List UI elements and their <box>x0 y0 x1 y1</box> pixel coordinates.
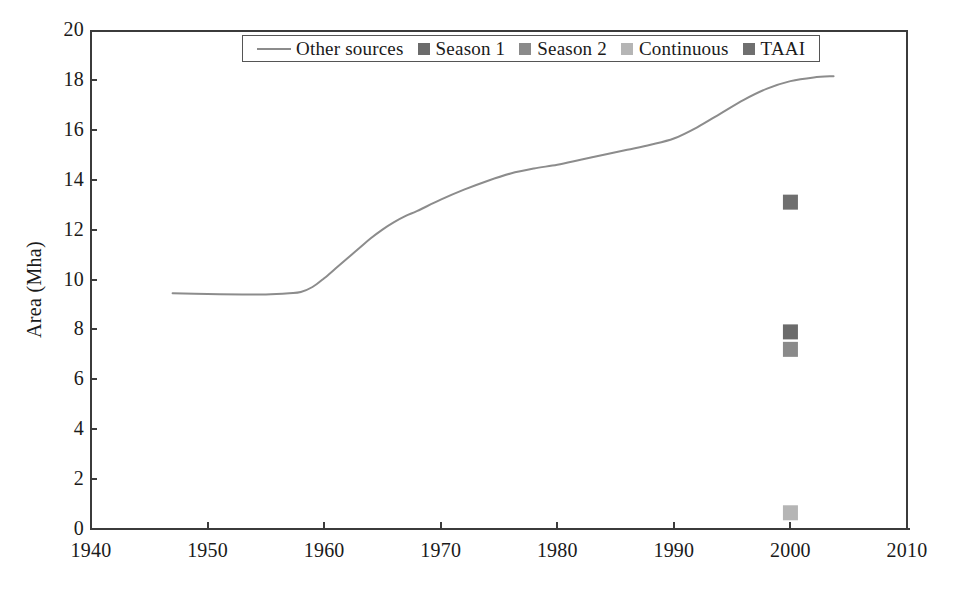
chart-legend: Other sourcesSeason 1Season 2ContinuousT… <box>242 35 820 62</box>
legend-square-swatch-icon <box>621 43 633 55</box>
chart-figure: 20181614121086420 1940195019601970198019… <box>0 0 964 595</box>
legend-label: Other sources <box>296 39 404 58</box>
x-tick-mark <box>323 522 325 529</box>
y-tick-label: 2 <box>40 468 84 488</box>
legend-entry-season-2[interactable]: Season 2 <box>519 39 607 58</box>
x-tick-mark <box>789 522 791 529</box>
y-tick-label: 16 <box>40 119 84 139</box>
y-tick-label: 12 <box>40 219 84 239</box>
y-tick-mark <box>90 328 97 330</box>
y-tick-mark <box>90 378 97 380</box>
legend-square-swatch-icon <box>418 43 430 55</box>
legend-entry-continuous[interactable]: Continuous <box>621 39 729 58</box>
legend-label: Season 2 <box>537 39 607 58</box>
plot-right-border <box>906 30 908 530</box>
plot-area <box>90 30 908 529</box>
legend-entry-taai[interactable]: TAAI <box>743 39 806 58</box>
legend-label: Continuous <box>639 39 729 58</box>
legend-square-swatch-icon <box>743 43 755 55</box>
x-tick-mark <box>207 522 209 529</box>
y-tick-mark <box>90 279 97 281</box>
legend-entry-season-1[interactable]: Season 1 <box>418 39 506 58</box>
x-tick-label: 2000 <box>745 539 835 561</box>
x-tick-label: 1950 <box>163 539 253 561</box>
y-tick-label: 18 <box>40 69 84 89</box>
legend-line-swatch-icon <box>257 48 291 50</box>
x-tick-label: 1970 <box>396 539 486 561</box>
x-tick-label: 1990 <box>629 539 719 561</box>
x-tick-mark <box>90 522 92 529</box>
y-axis-title: Area (Mha) <box>23 190 46 390</box>
legend-square-swatch-icon <box>519 43 531 55</box>
y-tick-label: 4 <box>40 418 84 438</box>
y-tick-label: 14 <box>40 169 84 189</box>
x-tick-mark <box>673 522 675 529</box>
y-tick-mark <box>90 179 97 181</box>
x-tick-mark <box>556 522 558 529</box>
y-tick-mark <box>90 229 97 231</box>
x-tick-label: 2010 <box>862 539 952 561</box>
x-tick-mark <box>440 522 442 529</box>
legend-label: TAAI <box>761 39 806 58</box>
x-axis-tick-labels: 19401950196019701980199020002010 <box>0 539 964 571</box>
y-tick-mark <box>90 478 97 480</box>
y-tick-label: 0 <box>40 518 84 538</box>
y-tick-mark <box>90 129 97 131</box>
x-axis-line <box>90 528 910 530</box>
y-tick-label: 20 <box>40 19 84 39</box>
y-tick-mark <box>90 79 97 81</box>
x-tick-label: 1940 <box>46 539 136 561</box>
legend-label: Season 1 <box>436 39 506 58</box>
y-tick-mark <box>90 428 97 430</box>
x-tick-label: 1980 <box>512 539 602 561</box>
x-tick-mark <box>906 522 908 529</box>
x-tick-label: 1960 <box>279 539 369 561</box>
y-tick-label: 10 <box>40 269 84 289</box>
y-tick-label: 8 <box>40 318 84 338</box>
y-tick-label: 6 <box>40 368 84 388</box>
legend-entry-other-sources[interactable]: Other sources <box>257 39 404 58</box>
